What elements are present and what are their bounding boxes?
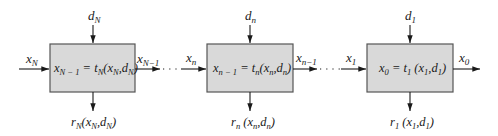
stage-n: dn xn − 1 = tn(xn,dn) xn−1 rn (xn,dn) [207, 8, 317, 131]
stage-N: dN xN − 1 = tN(xN,dN) xN xN−1 rN(xN,dN) [19, 8, 160, 131]
state-label-x0: x0 [458, 50, 470, 67]
stage-1: d1 x0 = t1 (x1,d1) x0 r1 (x1,d1) [367, 8, 480, 131]
decision-label-dn: dn [245, 8, 257, 25]
return-label-N: rN(xN,dN) [71, 115, 116, 131]
state-label-xn-1: xn−1 [295, 50, 317, 67]
return-label-1: r1 (x1,d1) [390, 115, 434, 131]
state-label-xN-1: xN−1 [136, 51, 159, 68]
decision-label-dN: dN [88, 8, 102, 25]
transform-label-1: x0 = t1 (x1,d1) [378, 61, 446, 77]
return-label-n: rn (xn,dn) [231, 115, 275, 131]
state-label-xN: xN [25, 51, 39, 68]
multistage-diagram: dN xN − 1 = tN(xN,dN) xN xN−1 rN(xN,dN) … [0, 0, 498, 136]
decision-label-d1: d1 [405, 8, 416, 25]
state-label-x1: x1 [345, 50, 356, 67]
state-label-xn: xn [185, 50, 197, 67]
